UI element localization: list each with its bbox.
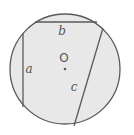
diagram-canvas: O a b c <box>0 0 134 135</box>
chord-b-label: b <box>58 24 66 38</box>
chord-c-label: c <box>71 80 78 94</box>
chord-a-label: a <box>25 62 32 76</box>
center-label: O <box>59 51 68 65</box>
circle-chords-diagram: O a b c <box>0 0 134 135</box>
center-point <box>64 68 67 71</box>
